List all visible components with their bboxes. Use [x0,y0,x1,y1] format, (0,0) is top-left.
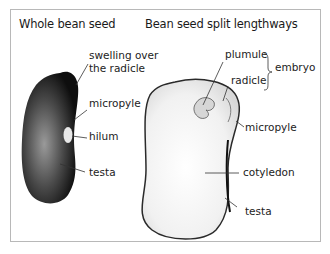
label-micropyle-whole: micropyle [89,97,141,110]
label-swelling-line1: swelling over [89,49,158,62]
whole-bean-seed [22,72,79,204]
label-testa-split: testa [245,205,272,218]
label-micropyle-split: micropyle [245,121,297,134]
label-radicle: radicle [231,74,266,87]
label-hilum: hilum [89,130,118,143]
label-embryo: embryo [275,61,315,74]
label-plumule: plumule [225,48,268,61]
title-split-bean-seed: Bean seed split lengthways [145,17,298,31]
split-bean-seed [142,79,239,239]
label-cotyledon: cotyledon [243,166,295,179]
label-swelling-line2: the radicle [89,62,145,75]
label-testa-whole: testa [89,166,116,179]
hilum-mark [64,127,73,143]
title-whole-bean-seed: Whole bean seed [19,17,115,31]
